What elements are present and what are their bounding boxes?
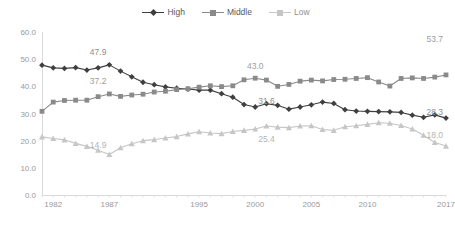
data-point-marker [342, 107, 348, 113]
data-point-marker [286, 82, 291, 87]
data-point-marker [376, 109, 382, 115]
data-point-marker [421, 76, 426, 81]
data-point-marker [197, 85, 202, 90]
data-point-marker [140, 79, 146, 85]
data-point-marker [62, 98, 67, 103]
data-label: 18.0 [426, 130, 443, 140]
data-point-marker [174, 87, 179, 92]
data-point-marker [253, 76, 258, 81]
data-point-marker [40, 109, 45, 114]
data-point-marker [353, 108, 359, 114]
data-point-marker [398, 110, 404, 116]
data-point-marker [432, 140, 438, 146]
data-point-marker [242, 77, 247, 82]
series-high [39, 62, 449, 121]
data-point-marker [84, 98, 89, 103]
data-point-marker [241, 102, 247, 108]
data-label: 31.6 [258, 96, 275, 106]
data-point-marker [106, 62, 112, 68]
data-point-marker [387, 84, 392, 89]
data-point-marker [73, 98, 78, 103]
data-label: 47.9 [90, 47, 107, 57]
data-point-marker [185, 86, 190, 91]
data-label: 37.2 [90, 76, 107, 86]
data-point-marker [444, 73, 449, 78]
data-point-marker [387, 109, 393, 115]
data-point-marker [365, 108, 371, 114]
data-label: 28.3 [426, 107, 443, 117]
data-point-marker [107, 92, 112, 97]
data-point-marker [309, 78, 314, 83]
data-point-marker [410, 76, 415, 81]
data-point-marker [95, 65, 101, 71]
data-point-marker [432, 75, 437, 80]
data-point-marker [264, 78, 269, 83]
data-point-marker [208, 83, 213, 88]
data-point-marker [399, 76, 404, 81]
data-point-marker [152, 90, 157, 95]
data-point-marker [443, 115, 449, 121]
data-point-marker [331, 101, 337, 107]
data-point-marker [275, 102, 281, 108]
data-point-marker [409, 112, 415, 118]
data-point-marker [343, 77, 348, 82]
data-point-marker [151, 82, 157, 88]
data-point-marker [320, 79, 325, 84]
data-label: 43.0 [247, 61, 264, 71]
data-point-marker [129, 93, 134, 98]
data-point-marker [73, 65, 79, 71]
series-line [42, 65, 446, 118]
data-label: 25.4 [258, 134, 275, 144]
data-point-marker [219, 84, 224, 89]
data-point-marker [275, 84, 280, 89]
data-point-marker [320, 99, 326, 105]
data-point-marker [39, 62, 45, 68]
data-point-marker [96, 94, 101, 99]
data-point-marker [230, 83, 235, 88]
data-point-marker [163, 89, 168, 94]
data-point-marker [365, 75, 370, 80]
data-point-marker [308, 102, 314, 108]
data-point-marker [84, 67, 90, 73]
data-point-marker [286, 106, 292, 112]
data-point-marker [62, 66, 68, 72]
data-point-marker [230, 94, 236, 100]
data-point-marker [118, 94, 123, 99]
data-point-marker [129, 74, 135, 80]
data-point-marker [50, 65, 56, 71]
data-point-marker [141, 92, 146, 97]
series-low [39, 120, 449, 157]
data-point-marker [354, 76, 359, 81]
data-point-marker [219, 91, 225, 97]
data-label: 14.9 [90, 140, 107, 150]
data-point-marker [331, 77, 336, 82]
data-point-marker [118, 68, 124, 74]
data-point-marker [297, 104, 303, 110]
data-point-marker [298, 79, 303, 84]
data-point-marker [51, 100, 56, 105]
data-label: 53.7 [426, 34, 443, 44]
data-point-marker [376, 80, 381, 85]
